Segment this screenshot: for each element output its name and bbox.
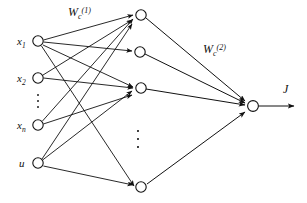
hidden-layer-nodes [135, 10, 146, 192]
input-ellipsis-icon [37, 94, 39, 108]
node-h4[interactable] [136, 182, 146, 192]
edge-u-h1 [42, 24, 132, 159]
label-xn: xn [16, 119, 26, 134]
neural-network-diagram: x1 x2 xn u Wc(1) Wc(2) J [0, 0, 307, 203]
hidden-ellipsis-icon [137, 130, 139, 148]
node-h3[interactable] [136, 83, 146, 93]
node-h2[interactable] [135, 47, 145, 57]
edge-h3-out [146, 89, 245, 105]
node-u[interactable] [33, 158, 43, 168]
edge-x2-h1 [43, 20, 132, 75]
edge-u-h4 [43, 166, 133, 185]
node-output[interactable] [248, 101, 259, 112]
label-x2: x2 [16, 72, 26, 87]
input-layer-nodes [33, 36, 43, 168]
edge-h1-out [146, 18, 245, 101]
edge-h4-out [147, 112, 245, 184]
node-xn[interactable] [33, 120, 43, 130]
weight-labels: Wc(1) Wc(2) [68, 5, 226, 58]
label-u: u [19, 157, 25, 169]
label-weight-1: Wc(1) [68, 5, 91, 21]
node-x2[interactable] [33, 73, 43, 83]
node-h1[interactable] [136, 10, 146, 20]
edge-h2-out [145, 54, 245, 103]
edge-xn-h3 [43, 95, 132, 124]
input-labels: x1 x2 xn u [16, 35, 26, 169]
node-x1[interactable] [33, 36, 43, 46]
edge-u-h3 [43, 91, 132, 160]
label-weight-2: Wc(2) [203, 42, 226, 58]
edge-xn-h1 [43, 19, 134, 121]
network-canvas: x1 x2 xn u Wc(1) Wc(2) J [0, 0, 307, 203]
edges-input-to-hidden [42, 15, 135, 186]
edge-x2-h3 [44, 78, 134, 88]
edges-hidden-to-output [145, 18, 245, 184]
label-x1: x1 [16, 35, 26, 50]
label-output-j: J [283, 82, 289, 96]
edge-x1-h3 [43, 45, 133, 87]
